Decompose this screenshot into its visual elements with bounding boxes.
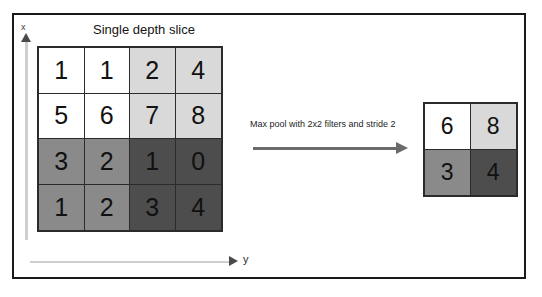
input-cell-r3-c3: 4 (176, 185, 222, 231)
input-cell-r3-c0: 1 (39, 185, 85, 231)
transform-caption: Max pool with 2x2 filters and stride 2 (250, 119, 396, 129)
x-axis-line (25, 40, 28, 240)
input-cell-r1-c0: 5 (39, 94, 85, 140)
output-cell-r1-c1: 4 (471, 150, 517, 196)
input-cell-r2-c1: 2 (85, 139, 131, 185)
input-cell-r1-c1: 6 (85, 94, 131, 140)
input-cell-r2-c3: 0 (176, 139, 222, 185)
output-cell-r0-c0: 6 (425, 104, 471, 150)
input-cell-r2-c2: 1 (130, 139, 176, 185)
output-cell-r0-c1: 8 (471, 104, 517, 150)
transform-arrow-icon (396, 142, 408, 154)
transform-arrow-line (253, 147, 397, 150)
input-cell-r3-c2: 3 (130, 185, 176, 231)
max-pooling-diagram: Single depth slice x y 1124567832101234 … (0, 0, 542, 297)
x-axis-arrowhead-icon (21, 33, 31, 42)
input-cell-r2-c0: 3 (39, 139, 85, 185)
page-title: Single depth slice (54, 22, 234, 37)
input-cell-r0-c2: 2 (130, 48, 176, 94)
input-cell-r1-c3: 8 (176, 94, 222, 140)
input-feature-map-grid: 1124567832101234 (37, 46, 223, 232)
y-axis-line (30, 261, 230, 263)
input-cell-r0-c0: 1 (39, 48, 85, 94)
x-axis-label: x (21, 22, 26, 32)
input-cell-r3-c1: 2 (85, 185, 131, 231)
input-cell-r1-c2: 7 (130, 94, 176, 140)
input-cell-r0-c3: 4 (176, 48, 222, 94)
output-pooled-grid: 6834 (423, 102, 518, 197)
y-axis-arrowhead-icon (229, 256, 238, 266)
input-cell-r0-c1: 1 (85, 48, 131, 94)
output-cell-r1-c0: 3 (425, 150, 471, 196)
y-axis-label: y (243, 253, 249, 265)
